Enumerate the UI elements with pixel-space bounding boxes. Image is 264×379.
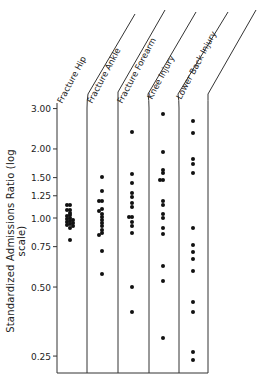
data-point xyxy=(191,226,195,230)
category-label: Knee Injury xyxy=(145,54,177,101)
data-point xyxy=(130,205,134,209)
data-point xyxy=(127,215,131,219)
data-point xyxy=(97,199,101,203)
y-tick-label: 0.75 xyxy=(31,242,51,252)
data-point xyxy=(161,226,165,230)
data-point xyxy=(130,224,134,228)
y-tick-label: 0.50 xyxy=(31,283,51,293)
data-point xyxy=(191,119,195,123)
data-point xyxy=(65,223,69,227)
data-point xyxy=(130,130,134,134)
data-point xyxy=(161,112,165,116)
y-tick-label: 3.00 xyxy=(31,104,51,114)
data-point xyxy=(130,191,134,195)
data-point xyxy=(191,269,195,273)
data-point xyxy=(130,231,134,235)
data-point xyxy=(161,150,165,154)
data-point xyxy=(65,203,69,207)
y-tick-label: 1.50 xyxy=(31,173,51,183)
y-tick-label: 1.25 xyxy=(31,191,51,201)
data-point xyxy=(191,131,195,135)
column-divider xyxy=(178,12,228,373)
data-point xyxy=(158,178,162,182)
data-point xyxy=(130,310,134,314)
data-point xyxy=(100,249,104,253)
data-point xyxy=(191,157,195,161)
data-point xyxy=(191,162,195,166)
data-point xyxy=(68,226,72,230)
category-columns: Fracture HipFracture AnkleFracture Forea… xyxy=(55,10,256,373)
data-point xyxy=(161,264,165,268)
data-point xyxy=(100,189,104,193)
data-point xyxy=(97,209,101,213)
data-point xyxy=(161,171,165,175)
data-point xyxy=(191,300,195,304)
column-divider xyxy=(208,10,256,373)
data-point xyxy=(100,224,104,228)
data-point xyxy=(130,195,134,199)
data-point xyxy=(191,310,195,314)
data-point xyxy=(100,272,104,276)
data-point xyxy=(191,350,195,354)
data-point xyxy=(191,358,195,362)
data-point xyxy=(97,233,101,237)
category-label: Fracture Hip xyxy=(55,55,88,105)
data-point xyxy=(191,171,195,175)
data-point xyxy=(161,216,165,220)
data-points xyxy=(65,112,195,362)
data-point xyxy=(130,172,134,176)
y-tick-label: 1.00 xyxy=(31,214,51,224)
data-point xyxy=(191,257,195,261)
data-point xyxy=(191,250,195,254)
data-point xyxy=(191,243,195,247)
data-point xyxy=(68,238,72,242)
data-point xyxy=(161,212,165,216)
data-point xyxy=(161,279,165,283)
data-point xyxy=(130,285,134,289)
data-point xyxy=(161,336,165,340)
data-point xyxy=(65,208,69,212)
data-point xyxy=(130,181,134,185)
data-point xyxy=(100,175,104,179)
data-point xyxy=(161,199,165,203)
data-point xyxy=(161,203,165,207)
y-axis: 3.002.001.501.251.000.750.500.25 xyxy=(31,103,208,373)
y-axis-label: Standardized Admissions Ratio (log scale… xyxy=(5,141,27,341)
data-point xyxy=(130,220,134,224)
y-tick-label: 2.00 xyxy=(31,144,51,154)
data-point xyxy=(161,232,165,236)
category-label: Lower Back Injury xyxy=(174,29,218,101)
scatter-chart: 3.002.001.501.251.000.750.500.25 Fractur… xyxy=(0,0,264,379)
data-point xyxy=(130,201,134,205)
y-tick-label: 0.25 xyxy=(31,352,51,362)
